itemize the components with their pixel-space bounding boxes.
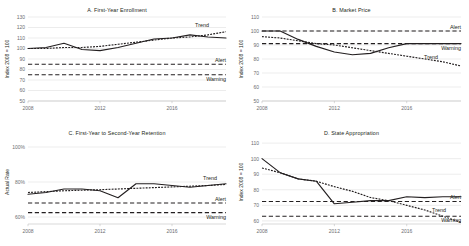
x-tick-label: 2016 xyxy=(166,105,177,111)
panel-c-plot: 100%80%60%200820122016Actual RateTrendAl… xyxy=(0,123,234,246)
y-tick-label: 70 xyxy=(253,70,259,76)
actual-series-line xyxy=(262,31,461,55)
y-tick-label: 80 xyxy=(253,56,259,62)
x-tick-label: 2012 xyxy=(94,228,105,234)
panel-d-plot: 11010090807060200820122016Index 2008 = 1… xyxy=(234,123,469,246)
x-tick-label: 2008 xyxy=(22,228,33,234)
y-axis-title: Actual Rate xyxy=(4,169,10,195)
y-axis-title: Index 2008 = 100 xyxy=(238,39,244,78)
y-tick-label: 70 xyxy=(19,77,25,83)
y-tick-label: 80 xyxy=(19,66,25,72)
y-tick-label: 90 xyxy=(253,42,259,48)
panel-d-render: 11010090807060200820122016Index 2008 = 1… xyxy=(238,140,461,233)
panel-c-render: 100%80%60%200820122016Actual RateTrendAl… xyxy=(4,144,226,234)
x-tick-label: 2016 xyxy=(166,228,177,234)
alert-label: Alert xyxy=(450,194,462,200)
warning-label: Warning xyxy=(441,217,461,223)
alert-label: Alert xyxy=(215,196,227,202)
x-tick-label: 2016 xyxy=(401,105,412,111)
actual-series-line xyxy=(262,159,461,204)
y-tick-label: 100 xyxy=(251,28,260,34)
y-tick-label: 80% xyxy=(15,179,26,185)
trend-series-line xyxy=(262,37,461,66)
figure-panel-grid: A. First-Year Enrollment 130120110100908… xyxy=(0,0,469,246)
trend-series-line xyxy=(28,32,226,49)
x-tick-label: 2008 xyxy=(256,228,267,234)
y-axis-title: Index 2008 = 100 xyxy=(238,162,244,201)
warning-label: Warning xyxy=(441,45,461,51)
y-tick-label: 110 xyxy=(251,14,259,20)
x-tick-label: 2016 xyxy=(401,228,412,234)
y-tick-label: 110 xyxy=(251,140,259,146)
y-tick-label: 100 xyxy=(251,156,260,162)
panel-b-plot: 1101009080706050200820122016Index 2008 =… xyxy=(234,0,469,123)
y-tick-label: 50 xyxy=(19,98,25,104)
panel-a-plot: 1301201101009080706050200820122016Index … xyxy=(0,0,234,123)
y-tick-label: 100 xyxy=(17,45,26,51)
warning-label: Warning xyxy=(206,76,226,82)
trend-label: Trend xyxy=(195,22,209,28)
x-tick-label: 2012 xyxy=(329,105,340,111)
chart-panel-a: A. First-Year Enrollment 130120110100908… xyxy=(0,0,234,123)
chart-panel-c: C. First-Year to Second-Year Retention 1… xyxy=(0,123,234,246)
alert-label: Alert xyxy=(450,24,462,30)
y-tick-label: 90 xyxy=(19,56,25,62)
y-tick-label: 70 xyxy=(253,202,259,208)
y-tick-label: 60 xyxy=(253,84,259,90)
trend-label: Trend xyxy=(203,175,217,181)
y-axis-title: Index 2008 = 100 xyxy=(4,39,10,78)
x-tick-label: 2008 xyxy=(256,105,267,111)
x-tick-label: 2012 xyxy=(329,228,340,234)
chart-panel-b: B. Market Price 110100908070605020082012… xyxy=(234,0,469,123)
alert-label: Alert xyxy=(215,57,227,63)
warning-label: Warning xyxy=(206,214,226,220)
y-tick-label: 60 xyxy=(253,218,259,224)
trend-label: Trend xyxy=(432,207,446,213)
y-tick-label: 80 xyxy=(253,187,259,193)
x-tick-label: 2012 xyxy=(94,105,105,111)
y-tick-label: 120 xyxy=(17,24,26,30)
y-tick-label: 90 xyxy=(253,171,259,177)
y-tick-label: 110 xyxy=(17,35,25,41)
y-tick-label: 130 xyxy=(17,14,26,20)
panel-b-render: 1101009080706050200820122016Index 2008 =… xyxy=(238,14,461,111)
y-tick-label: 50 xyxy=(253,98,259,104)
y-tick-label: 100% xyxy=(12,144,25,150)
trend-label: Trend xyxy=(424,54,438,60)
chart-panel-d: D. State Appropriation 11010090807060200… xyxy=(234,123,469,246)
y-tick-label: 60% xyxy=(15,214,26,220)
y-tick-label: 60 xyxy=(19,87,25,93)
panel-a-render: 1301201101009080706050200820122016Index … xyxy=(4,14,226,111)
x-tick-label: 2008 xyxy=(22,105,33,111)
